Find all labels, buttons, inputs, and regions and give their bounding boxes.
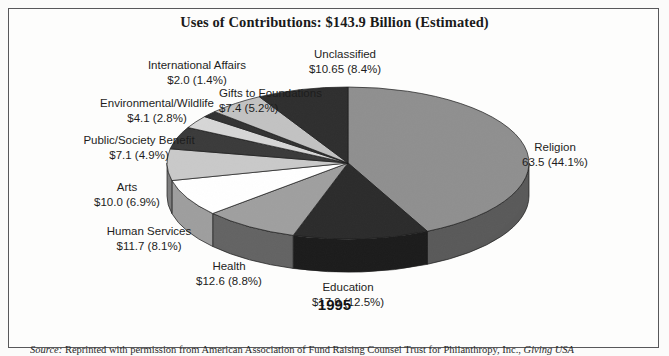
pie-label-health-name: Health	[159, 259, 299, 274]
pie-label-public-society-benefit-name: Public/Society Benefit	[44, 133, 234, 148]
pie-label-human-services-name: Human Services	[74, 224, 224, 239]
pie-label-unclassified-value: $10.65 (8.4%)	[281, 62, 409, 77]
source-note-body: Reprinted with permission from American …	[62, 344, 523, 355]
pie-label-religion-name: Religion	[490, 140, 620, 155]
pie-label-education-name: Education	[273, 280, 423, 295]
pie-label-human-services-value: $11.7 (8.1%)	[74, 239, 224, 254]
pie-label-religion-value: 63.5 (44.1%)	[490, 155, 620, 170]
pie-label-public-society-benefit-value: $7.1 (4.9%)	[44, 148, 234, 163]
pie-label-arts-name: Arts	[62, 180, 192, 195]
source-note-publication: Giving USA	[524, 344, 574, 355]
pie-label-religion: Religion 63.5 (44.1%)	[490, 140, 620, 169]
pie-label-unclassified: Unclassified $10.65 (8.4%)	[281, 47, 409, 76]
pie-label-public-society-benefit: Public/Society Benefit $7.1 (4.9%)	[44, 133, 234, 162]
source-note: Source: Reprinted with permission from A…	[30, 344, 650, 355]
source-note-prefix: Source:	[30, 344, 62, 355]
year-label: 1995	[0, 296, 669, 313]
pie-label-human-services: Human Services $11.7 (8.1%)	[74, 224, 224, 253]
pie-label-environmental-wildlife-value: $4.1 (2.8%)	[62, 111, 252, 126]
pie-label-environmental-wildlife: Environmental/Wildlife $4.1 (2.8%)	[62, 96, 252, 125]
pie-label-arts-value: $10.0 (6.9%)	[62, 195, 192, 210]
pie-label-international-affairs: International Affairs $2.0 (1.4%)	[102, 58, 292, 87]
pie-label-arts: Arts $10.0 (6.9%)	[62, 180, 192, 209]
pie-label-international-affairs-name: International Affairs	[102, 58, 292, 73]
pie-label-international-affairs-value: $2.0 (1.4%)	[102, 73, 292, 88]
pie-label-unclassified-name: Unclassified	[281, 47, 409, 62]
pie-label-environmental-wildlife-name: Environmental/Wildlife	[62, 96, 252, 111]
